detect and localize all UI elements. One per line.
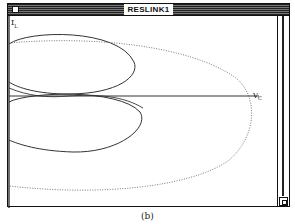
outer-loop-curve <box>9 41 252 190</box>
lower-loop-entry <box>9 88 68 97</box>
upper-loop-curve <box>9 34 135 94</box>
figure-caption: (b) <box>0 211 295 221</box>
scroll-track[interactable] <box>282 16 284 196</box>
resize-grow-box-icon[interactable] <box>279 197 288 206</box>
reslink-window: RESLINK1 IL VC <box>7 3 290 207</box>
phase-plot <box>8 16 278 208</box>
window-title: RESLINK1 <box>124 4 174 15</box>
title-bar[interactable]: RESLINK1 <box>8 4 289 16</box>
x-axis-label: VC <box>253 92 262 101</box>
y-axis-label: IL <box>11 18 18 29</box>
vertical-scrollbar[interactable] <box>277 16 289 206</box>
phase-plot-area: IL VC <box>8 16 278 206</box>
close-box-icon[interactable] <box>12 6 19 13</box>
lower-loop-curve <box>9 94 142 152</box>
